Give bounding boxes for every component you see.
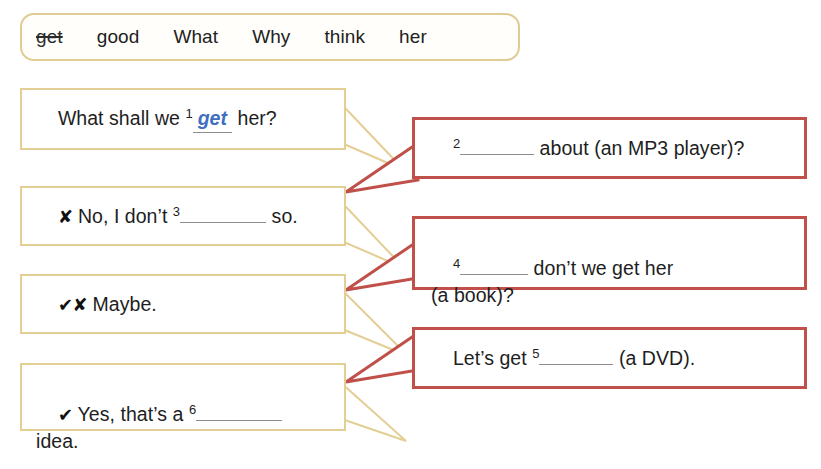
bubble-text-post: don’t we get her	[528, 257, 673, 279]
bubble-text-line2: (a book)?	[431, 284, 514, 306]
bubble-text-post: so.	[266, 205, 298, 227]
bubble-text-pre: No, I don’t	[72, 205, 172, 227]
bubble-question-1[interactable]: What shall we 1get her?	[20, 88, 346, 150]
word-bank: get good What Why think her	[20, 13, 520, 61]
bubble-reply-maybe[interactable]: ✔✘ Maybe.	[20, 274, 346, 334]
answer-blank[interactable]	[460, 154, 534, 155]
filled-answer[interactable]: get	[193, 105, 232, 133]
bubble-text-post: her?	[232, 107, 277, 129]
word-bank-item-think[interactable]: think	[324, 26, 365, 48]
answer-blank[interactable]	[196, 420, 282, 421]
gap-number: 4	[453, 256, 460, 271]
gap-number: 3	[173, 203, 180, 218]
bubble-text-post: about (an MP3 player)?	[534, 137, 744, 159]
gap-number: 6	[189, 402, 196, 417]
gap-number: 2	[453, 135, 460, 150]
word-bank-item-what[interactable]: What	[173, 26, 218, 48]
gap-number: 5	[532, 345, 539, 360]
bubble-reply-maybe-text: ✔✘ Maybe.	[36, 264, 157, 345]
bubble-reply-yes-text: ✔ Yes, that’s a 6idea.	[36, 374, 282, 469]
bubble-question-1-text: What shall we 1get her?	[36, 78, 277, 160]
bubble-text-pre: Yes, that’s a	[72, 403, 188, 425]
cross-icon: ✘	[58, 206, 73, 227]
bubble-text-pre: Maybe.	[87, 293, 157, 315]
bubble-suggestion-3-text: Let’s get 5 (a DVD).	[431, 318, 695, 399]
answer-blank[interactable]	[460, 274, 528, 275]
word-bank-item-why[interactable]: Why	[252, 26, 290, 48]
bubble-suggestion-1[interactable]: 2 about (an MP3 player)?	[412, 117, 807, 179]
answer-blank[interactable]	[539, 364, 613, 365]
bubble-text-post: (a DVD).	[613, 347, 695, 369]
bubble-reply-no-text: ✘ No, I don’t 3 so.	[36, 176, 298, 257]
word-bank-item-good[interactable]: good	[97, 26, 140, 48]
bubble-reply-yes[interactable]: ✔ Yes, that’s a 6idea.	[20, 363, 346, 431]
bubble-text-pre: Let’s get	[453, 347, 532, 369]
bubble-reply-no[interactable]: ✘ No, I don’t 3 so.	[20, 186, 346, 246]
answer-blank[interactable]	[180, 222, 266, 223]
bubble-text-line2: idea.	[36, 430, 79, 452]
bubble-text-pre: What shall we	[58, 107, 186, 129]
check-cross-icon: ✔✘	[58, 294, 87, 315]
word-bank-item-her[interactable]: her	[399, 26, 427, 48]
bubble-suggestion-1-text: 2 about (an MP3 player)?	[431, 108, 745, 189]
check-icon: ✔	[58, 404, 73, 425]
bubble-suggestion-2[interactable]: 4 don’t we get her(a book)?	[412, 216, 807, 290]
bubble-suggestion-3[interactable]: Let’s get 5 (a DVD).	[412, 327, 807, 389]
word-bank-item-get[interactable]: get	[36, 26, 63, 48]
gap-number: 1	[185, 106, 192, 121]
